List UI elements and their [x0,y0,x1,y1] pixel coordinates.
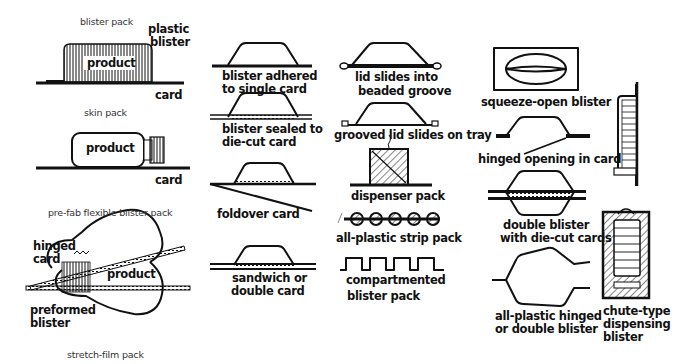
squeeze-open-drawing [494,48,578,90]
blister-pack-title: blister pack [80,17,133,27]
hinged-callout: hinged [33,240,76,252]
foldover-card-drawing [210,163,316,211]
blister-adhered-drawing [212,43,312,66]
stretch-film-title: stretch-film pack [67,350,144,360]
compartmented-label-1: compartmented [346,274,445,286]
grooved-lid-tray-drawing [342,103,438,126]
blister-callout: blister [150,36,190,48]
prefab-title: pre-fab flexible blister pack [48,208,172,218]
blister-pack-card-label: card [155,89,182,101]
chute-label-3: blister [603,331,643,343]
strip-pack-drawing [338,213,440,225]
hinged-opening-drawing [496,117,590,154]
double-blister-label-2: with die-cut cards [500,232,611,244]
foldover-label: foldover card [217,208,300,220]
blister-adhered-label-2: to single card [222,83,307,95]
squeeze-open-label: squeeze-open blister [481,96,611,108]
chute-side-view-drawing [614,82,637,186]
double-blister-drawing [488,171,586,215]
lid-beaded-label-1: lid slides into [355,71,438,83]
lid-beaded-groove-drawing [340,43,441,69]
dispenser-pack-drawing [350,135,432,185]
hinged-opening-label: hinged opening in card [478,153,621,165]
skin-pack-card-label: card [155,174,182,186]
blister-callout-2: blister [30,317,70,329]
blister-die-cut-label-1: blister sealed to [222,123,323,135]
skin-pack-product-label: product [86,142,134,154]
blister-pack-diagram: blister pack plastic blister product car… [0,0,687,364]
sandwich-label-2: double card [231,285,304,297]
compartmented-pack-drawing [340,258,444,270]
double-blister-label-1: double blister [503,219,589,231]
preformed-callout: preformed [30,304,96,316]
chute-front-view-drawing [603,209,649,298]
compartmented-label-2: blister pack [347,290,420,302]
chute-label-1: chute-type [603,305,670,317]
lid-beaded-label-2: beaded groove [358,85,451,97]
sandwich-label-1: sandwich or [232,272,307,284]
all-plastic-hinged-label-1: all-plastic hinged [495,310,602,322]
blister-pack-product-label: product [87,57,135,69]
all-plastic-hinged-drawing [492,248,590,306]
chute-label-2: dispensing [603,318,670,330]
strip-pack-label: all-plastic strip pack [336,232,462,244]
sandwich-card-drawing [210,246,316,269]
dispenser-pack-label: dispenser pack [351,190,445,202]
grooved-lid-label: grooved lid slides on tray [334,129,491,141]
prefab-product-label: product [107,268,155,280]
all-plastic-hinged-label-2: or double blister [495,323,598,335]
skin-pack-title: skin pack [84,108,127,118]
blister-die-cut-label-2: die-cut card [222,136,296,148]
plastic-callout: plastic [148,23,189,35]
blister-die-cut-drawing [210,93,312,119]
card-callout: card [33,253,60,265]
blister-adhered-label-1: blister adhered [222,70,317,82]
